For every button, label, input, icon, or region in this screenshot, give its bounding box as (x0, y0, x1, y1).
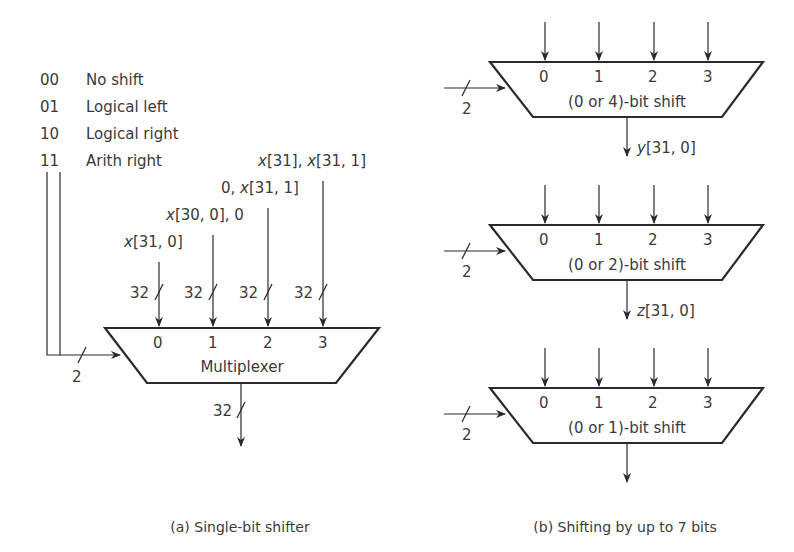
bus-width-label: 32 (294, 284, 313, 302)
input-label-0: x[31, 0] (123, 233, 183, 251)
mux-label: (0 or 2)-bit shift (568, 256, 686, 274)
port-label: 3 (318, 334, 328, 352)
legend-label: Arith right (86, 152, 162, 170)
output-wire: 32 (213, 383, 245, 446)
port-label: 0 (539, 394, 549, 412)
port-label: 1 (208, 334, 218, 352)
bus-width-label: 32 (239, 284, 258, 302)
bus-width-label: 32 (213, 402, 232, 420)
port-label: 2 (263, 334, 273, 352)
port-label: 1 (594, 231, 604, 249)
legend-code: 00 (40, 71, 59, 89)
port-label: 2 (648, 231, 658, 249)
select-width-label: 2 (462, 426, 472, 444)
caption-b: (b) Shifting by up to 7 bits (533, 519, 716, 535)
mux-stage-1bit: 0 1 2 3 (0 or 1)-bit shift 2 (444, 348, 763, 482)
port-label: 3 (703, 394, 713, 412)
input-label-1: x[30, 0], 0 (165, 206, 244, 224)
port-label: 1 (594, 68, 604, 86)
port-label: 3 (703, 68, 713, 86)
port-label: 0 (153, 334, 163, 352)
legend-code: 11 (40, 152, 59, 170)
legend-label: No shift (86, 71, 144, 89)
port-label: 1 (594, 394, 604, 412)
select-width-label: 2 (462, 263, 472, 281)
legend-code: 10 (40, 125, 59, 143)
shifter-diagram: 00 No shift 01 Logical left 10 Logical r… (0, 0, 794, 552)
select-width-label: 2 (462, 100, 472, 118)
port-label: 2 (648, 68, 658, 86)
select-legend: 00 No shift 01 Logical left 10 Logical r… (40, 71, 179, 170)
output-label: y[31, 0] (636, 139, 696, 157)
port-label: 0 (539, 231, 549, 249)
port-label: 0 (539, 68, 549, 86)
output-label: z[31, 0] (636, 302, 695, 320)
port-label: 2 (648, 394, 658, 412)
bus-width-label: 32 (184, 284, 203, 302)
select-wire: 2 (47, 172, 120, 386)
legend-label: Logical right (86, 125, 179, 143)
legend-code: 01 (40, 98, 59, 116)
caption-a: (a) Single-bit shifter (170, 519, 310, 535)
multiplexer: 0 1 2 3 Multiplexer (105, 328, 379, 383)
input-wires: 32 32 32 32 (130, 181, 327, 326)
mux-label: Multiplexer (200, 358, 284, 376)
mux-label: (0 or 4)-bit shift (568, 93, 686, 111)
input-label-3: x[31], x[31, 1] (257, 152, 366, 170)
mux-label: (0 or 1)-bit shift (568, 419, 686, 437)
select-width-label: 2 (72, 368, 82, 386)
legend-label: Logical left (86, 98, 168, 116)
port-label: 3 (703, 231, 713, 249)
input-label-2: 0, x[31, 1] (221, 179, 299, 197)
mux-stage-2bit: 0 1 2 3 (0 or 2)-bit shift 2 z[31, 0] (444, 185, 763, 320)
mux-stage-4bit: 0 1 2 3 (0 or 4)-bit shift 2 y[31, 0] (444, 22, 763, 157)
bus-width-label: 32 (130, 284, 149, 302)
